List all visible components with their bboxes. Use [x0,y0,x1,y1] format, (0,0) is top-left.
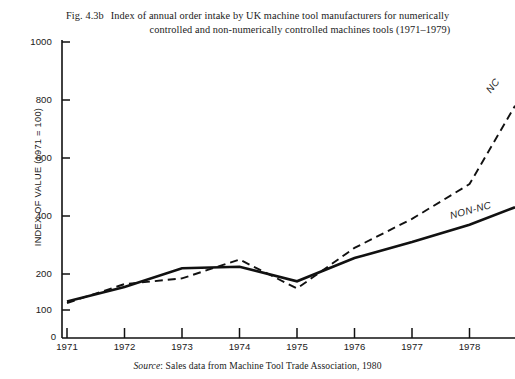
figure-root: Fig. 4.3bIndex of annual order intake by… [0,0,515,379]
chart-canvas [0,0,515,379]
source-value: : Sales data from Machine Tool Trade Ass… [160,360,381,371]
x-tick-label-1978: 1978 [444,341,496,352]
x-tick-label-1976: 1976 [329,341,381,352]
x-tick-label-1972: 1972 [99,341,151,352]
y-axis-title: INDEX OF VALUE (1971 = 100) [33,97,43,257]
y-tick-label-1000: 1000 [8,36,52,47]
y-tick-label-100: 100 [8,304,52,315]
y-tick-marks [62,42,70,310]
y-tick-label-400: 400 [8,210,52,221]
source-label: Source [133,360,160,371]
series-line-nc [67,106,515,303]
x-tick-label-1977: 1977 [386,341,438,352]
y-tick-label-800: 800 [8,94,52,105]
series-line-non-nc [67,207,515,301]
x-tick-label-1973: 1973 [156,341,208,352]
y-tick-label-600: 600 [8,152,52,163]
x-tick-label-1974: 1974 [214,341,266,352]
x-tick-label-1971: 1971 [41,341,93,352]
y-tick-label-200: 200 [8,268,52,279]
x-tick-marks [67,328,470,338]
x-tick-label-1975: 1975 [271,341,323,352]
plot-area: INDEX OF VALUE (1971 = 100) 1000 800 600… [0,0,515,379]
source-note: Source: Sales data from Machine Tool Tra… [0,360,515,371]
